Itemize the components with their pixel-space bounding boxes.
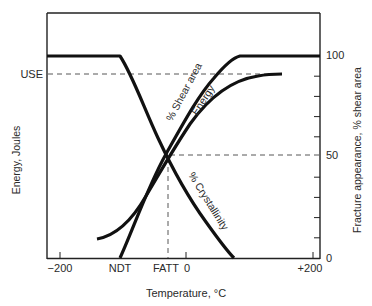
right-tick-100: 100 xyxy=(326,49,344,61)
x-axis-label: Temperature, °C xyxy=(146,287,226,299)
x-axis-ticks xyxy=(60,252,313,258)
x-tick-plus-200: +200 xyxy=(298,262,323,274)
x-tick-minus-200: −200 xyxy=(48,262,73,274)
right-tick-50: 50 xyxy=(326,149,338,161)
right-axis-ticks xyxy=(314,76,320,238)
energy-curve xyxy=(97,74,282,239)
right-tick-0: 0 xyxy=(326,252,332,264)
x-annotation-ndt: NDT xyxy=(109,262,132,274)
right-axis-label: Fracture appearance, % shear area xyxy=(351,67,363,233)
left-axis-label: Energy, Joules xyxy=(10,126,22,195)
use-label: USE xyxy=(20,68,43,80)
x-annotation-fatt: FATT xyxy=(153,262,179,274)
ductile-brittle-transition-chart: −200 NDT FATT 0 +200 Temperature, °C USE… xyxy=(0,0,372,306)
x-tick-0: 0 xyxy=(184,262,190,274)
